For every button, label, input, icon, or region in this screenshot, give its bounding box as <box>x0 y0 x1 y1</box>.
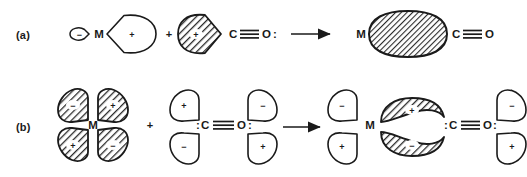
product-oxygen-lonepair-b: : <box>493 119 497 131</box>
backbond-lobe-bottom-b-sign: − <box>409 141 414 151</box>
co-pistar-lobe-top-right-b-sign: − <box>260 101 265 111</box>
orbital-diagram-svg: (a) − M + + + C O : <box>0 0 527 177</box>
co-oxygen-lonepair-a: : <box>273 28 277 40</box>
separator-plus-a: + <box>166 28 172 40</box>
metal-atom-label-a: M <box>94 28 104 40</box>
metal-atom-label-b: M <box>88 119 98 131</box>
product-carbon-lonepair-left-b: : <box>444 119 448 131</box>
row-a-label: (a) <box>16 29 30 41</box>
residual-pistar-lobe-bottom-b-sign: + <box>509 142 514 152</box>
product-metal-label-a: M <box>356 28 366 40</box>
co-pistar-lobe-bottom-left-b-sign: − <box>181 142 186 152</box>
co-carbon-label-b: C <box>201 119 209 131</box>
product-carbon-label-a: C <box>452 28 460 40</box>
metal-d-lobe-bottom-left-b-sign: + <box>70 141 75 151</box>
orbital-diagram-figure: (a) − M + + + C O : <box>0 0 527 177</box>
co-carbon-label-a: C <box>229 28 237 40</box>
residual-metal-lobe-top-b-sign: − <box>339 101 344 111</box>
co-lonepair-lobe-a-sign: + <box>193 30 198 40</box>
co-carbon-lonepair-left-b: : <box>196 119 200 131</box>
sigma-bond-orbital-a <box>369 11 447 57</box>
residual-metal-lobe-bottom-b-sign: + <box>339 142 344 152</box>
metal-sp-large-lobe-a-sign: + <box>129 30 134 40</box>
product-oxygen-label-b: O <box>483 119 492 131</box>
backbond-lobe-top-b-sign: + <box>409 106 414 116</box>
residual-pistar-lobe-top-b-sign: − <box>509 101 514 111</box>
separator-plus-b: + <box>147 119 153 131</box>
co-pistar-lobe-bottom-right-b-sign: + <box>260 142 265 152</box>
metal-d-lobe-top-right-b-sign: + <box>110 101 115 111</box>
metal-d-lobe-bottom-right-b-sign: − <box>110 141 115 151</box>
co-oxygen-label-a: O <box>262 28 271 40</box>
metal-d-lobe-top-left-b-sign: − <box>70 101 75 111</box>
metal-sp-small-lobe-a-sign: − <box>77 30 82 40</box>
row-b-label: (b) <box>16 121 31 133</box>
co-pistar-lobe-top-left-b-sign: + <box>181 101 186 111</box>
product-oxygen-label-a: O <box>485 28 494 40</box>
product-carbon-label-b: C <box>449 119 457 131</box>
co-oxygen-label-b: O <box>237 119 246 131</box>
co-oxygen-lonepair-b: : <box>248 119 252 131</box>
product-metal-label-b: M <box>365 119 375 131</box>
sigma-bond-orbital-a-shape <box>369 11 447 57</box>
